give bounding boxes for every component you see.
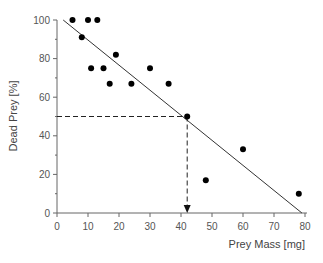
data-point bbox=[70, 17, 76, 23]
y-tick-label: 100 bbox=[33, 15, 50, 26]
x-tick-label: 50 bbox=[206, 221, 218, 232]
y-tick-label: 80 bbox=[39, 53, 51, 64]
data-points bbox=[70, 17, 302, 197]
x-tick-label: 70 bbox=[268, 221, 280, 232]
y-tick-label: 60 bbox=[39, 92, 51, 103]
data-point bbox=[79, 34, 85, 40]
data-point bbox=[166, 81, 172, 87]
x-tick-label: 30 bbox=[144, 221, 156, 232]
x-tick-label: 40 bbox=[175, 221, 187, 232]
data-point bbox=[107, 81, 113, 87]
x-axis-label: Prey Mass [mg] bbox=[229, 238, 305, 250]
x-tick-label: 0 bbox=[54, 221, 60, 232]
y-tick-label: 20 bbox=[39, 169, 51, 180]
data-point bbox=[203, 177, 209, 183]
data-point bbox=[128, 81, 134, 87]
data-point bbox=[94, 17, 100, 23]
data-point bbox=[113, 52, 119, 58]
data-point bbox=[184, 114, 190, 120]
data-point bbox=[101, 65, 107, 71]
arrow-down-icon bbox=[184, 205, 191, 213]
annotations bbox=[57, 117, 191, 214]
y-tick-label: 0 bbox=[44, 208, 50, 219]
axes: 02040608010001020304050607080 bbox=[33, 15, 311, 233]
y-axis-label: Dead Prey [%] bbox=[7, 81, 19, 152]
data-point bbox=[147, 65, 153, 71]
scatter-chart: 02040608010001020304050607080 Prey Mass … bbox=[0, 0, 323, 263]
data-point bbox=[85, 17, 91, 23]
x-tick-label: 20 bbox=[113, 221, 125, 232]
data-point bbox=[240, 146, 246, 152]
x-tick-label: 80 bbox=[299, 221, 311, 232]
data-point bbox=[88, 65, 94, 71]
x-tick-label: 10 bbox=[82, 221, 94, 232]
y-tick-label: 40 bbox=[39, 130, 51, 141]
x-tick-label: 60 bbox=[237, 221, 249, 232]
data-point bbox=[296, 191, 302, 197]
